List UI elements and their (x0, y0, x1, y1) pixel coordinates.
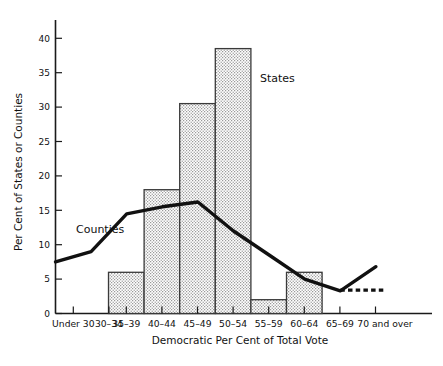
y-tick-label: 15 (39, 206, 50, 216)
x-axis-title: Democratic Per Cent of Total Vote (152, 334, 329, 346)
y-axis-title: Per Cent of States or Counties (12, 93, 24, 251)
x-tick-label: 60–64 (290, 318, 318, 329)
x-tick-label: 65–69 (326, 318, 354, 329)
y-tick-label: 30 (39, 102, 51, 112)
x-tick-label: 40–44 (148, 318, 176, 329)
y-tick-label: 10 (39, 240, 51, 250)
bar-45-49 (180, 104, 216, 314)
y-tick-label: 5 (44, 274, 50, 284)
histogram-line-chart: 0 5 10 15 20 25 30 35 40 Per Cent of Sta… (0, 0, 443, 366)
x-tick-label: 45–49 (184, 318, 212, 329)
x-tick-label: 50–54 (219, 318, 247, 329)
x-tick-labels: Under 30 30–34 35–39 40–44 45–49 50–54 5… (52, 318, 413, 329)
y-tick-label: 25 (39, 137, 50, 147)
y-tick-label: 20 (39, 171, 51, 181)
x-tick-label: 55–59 (255, 318, 283, 329)
chart-container: 0 5 10 15 20 25 30 35 40 Per Cent of Sta… (0, 0, 443, 366)
y-tick-label: 35 (39, 68, 50, 78)
series-label-counties: Counties (76, 223, 124, 236)
bar-50-54 (215, 49, 251, 314)
x-tick-label: 70 and over (357, 318, 413, 329)
series-label-states: States (260, 72, 295, 85)
x-tick-label: 35–39 (112, 318, 140, 329)
x-tick-label: Under 30 (52, 318, 95, 329)
y-tick-label: 0 (44, 309, 50, 319)
y-tick-label: 40 (39, 34, 51, 44)
